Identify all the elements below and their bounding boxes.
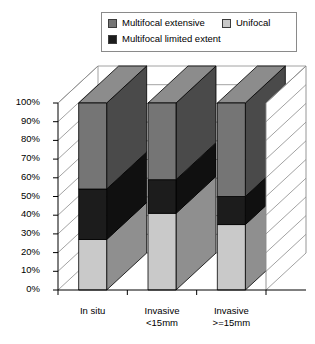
- y-axis-tick-label: 70%: [21, 153, 40, 163]
- chart-legend: Multifocal extensive Multifocal limited …: [101, 12, 297, 52]
- y-axis-tick-label: 50%: [21, 191, 40, 201]
- bar-front-face: [79, 189, 107, 239]
- x-axis-category-label-line: Invasive: [186, 305, 276, 317]
- legend-item-multifocal-limited-extent: Multifocal limited extent: [108, 34, 221, 44]
- legend-swatch-unifocal: [222, 19, 231, 28]
- legend-label-multifocal-extensive: Multifocal extensive: [122, 18, 205, 28]
- y-axis-tick-label: 80%: [21, 134, 40, 144]
- y-axis-tick-label: 20%: [21, 247, 40, 257]
- bar-front-face: [148, 180, 176, 214]
- x-axis-category-label-line: >=15mm: [186, 317, 276, 329]
- y-axis-tick-label: 40%: [21, 209, 40, 219]
- bar-front-face: [148, 103, 176, 180]
- y-axis-tick-label: 30%: [21, 228, 40, 238]
- y-axis-tick-label: 100%: [16, 97, 40, 107]
- bar-front-face: [79, 103, 107, 189]
- chart-plot-area: [0, 60, 315, 310]
- bar-front-face: [217, 103, 245, 197]
- legend-swatch-multifocal-limited-extent: [108, 35, 117, 44]
- bar-front-face: [79, 240, 107, 290]
- bar-front-face: [217, 225, 245, 290]
- chart-root: Multifocal extensive Multifocal limited …: [0, 0, 315, 344]
- legend-label-multifocal-limited-extent: Multifocal limited extent: [122, 34, 221, 44]
- y-axis-tick-labels: 100%90%80%70%60%50%40%30%20%10%0%: [0, 60, 44, 310]
- bar-front-face: [217, 197, 245, 225]
- legend-item-multifocal-extensive: Multifocal extensive: [108, 18, 205, 28]
- y-axis-tick-label: 60%: [21, 172, 40, 182]
- chart-3d-canvas: [0, 60, 315, 310]
- y-axis-tick-label: 0%: [26, 284, 40, 294]
- x-axis-tick-labels: In situInvasive<15mmInvasive>=15mm: [0, 303, 315, 343]
- y-axis-tick-label: 90%: [21, 116, 40, 126]
- legend-label-unifocal: Unifocal: [236, 18, 270, 28]
- bar-front-face: [148, 213, 176, 290]
- x-axis-category-label: Invasive>=15mm: [186, 305, 276, 328]
- y-axis-tick-label: 10%: [21, 265, 40, 275]
- legend-swatch-multifocal-extensive: [108, 19, 117, 28]
- legend-item-unifocal: Unifocal: [222, 18, 270, 28]
